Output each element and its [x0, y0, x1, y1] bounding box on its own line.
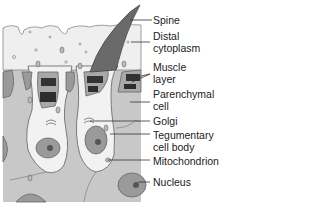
- label-mitochondrion: Mitochondrion: [153, 155, 219, 167]
- label-spine: Spine: [153, 14, 180, 26]
- label-line: cytoplasm: [153, 42, 200, 54]
- label-line: Tegumentary: [153, 129, 214, 141]
- label-nucleus: Nucleus: [153, 176, 191, 188]
- label-line: layer: [153, 73, 186, 85]
- label-distal-cytoplasm: Distal cytoplasm: [153, 30, 200, 54]
- label-golgi: Golgi: [153, 115, 178, 127]
- label-tegumentary-cell-body: Tegumentary cell body: [153, 129, 214, 153]
- label-parenchymal-cell: Parenchymal cell: [153, 88, 214, 112]
- label-line: cell: [153, 100, 214, 112]
- label-line: cell body: [153, 141, 214, 153]
- label-muscle-layer: Muscle layer: [153, 61, 186, 85]
- label-line: Muscle: [153, 61, 186, 73]
- label-line: Parenchymal: [153, 88, 214, 100]
- parenchymal-nucleus: [118, 173, 146, 197]
- label-line: Distal: [153, 30, 200, 42]
